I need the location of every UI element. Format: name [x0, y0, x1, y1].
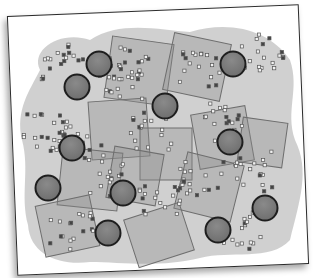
circle-node [36, 176, 61, 201]
circle-node [65, 75, 90, 100]
circle-node [221, 52, 246, 77]
circle-node [153, 94, 178, 119]
circle-node [206, 218, 231, 243]
scatter-figure [0, 0, 318, 278]
circle-node [96, 221, 121, 246]
diagram-stage [0, 0, 318, 278]
circle-node [87, 52, 112, 77]
circle-node [60, 136, 85, 161]
circle-node [218, 130, 243, 155]
circle-node [253, 196, 278, 221]
circle-node [111, 181, 136, 206]
